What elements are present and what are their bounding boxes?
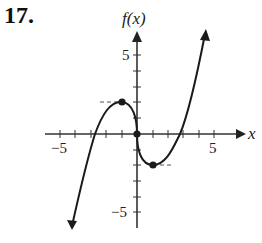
y-axis-label: f(x) — [122, 9, 146, 28]
function-graph: −5 5 x 5 −5 f(x) — [0, 0, 262, 243]
y-tick-label-neg5: −5 — [111, 204, 127, 220]
x-tick-label-5: 5 — [209, 140, 217, 156]
origin-point — [133, 130, 140, 137]
y-axis-arrow-icon — [132, 31, 142, 42]
x-axis-arrow-icon — [236, 129, 246, 139]
y-axis: 5 −5 f(x) — [111, 9, 146, 228]
local-max-point — [118, 98, 125, 105]
x-axis: −5 5 x — [45, 124, 256, 156]
local-min-point — [149, 161, 156, 168]
curve-end-arrow-down-icon — [67, 220, 77, 230]
x-axis-label: x — [247, 124, 256, 143]
y-tick-label-5: 5 — [122, 47, 130, 63]
curve-end-arrow-up-icon — [200, 29, 210, 41]
x-tick-label-neg5: −5 — [51, 140, 67, 156]
